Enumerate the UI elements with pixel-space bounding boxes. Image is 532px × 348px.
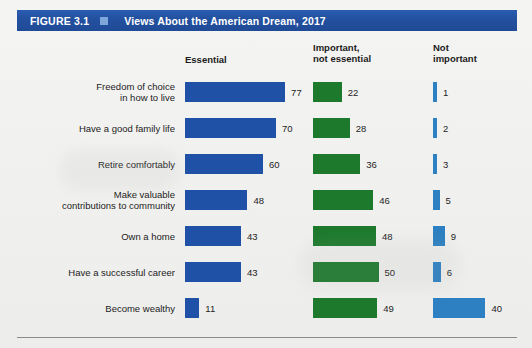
bar-value-label: 1 bbox=[443, 87, 448, 98]
row-label: Own a home bbox=[10, 231, 175, 242]
bar bbox=[185, 82, 285, 102]
bar-value-label: 48 bbox=[253, 195, 264, 206]
bar bbox=[313, 262, 379, 282]
bar bbox=[313, 298, 377, 318]
figure-number: FIGURE 3.1 bbox=[30, 15, 89, 27]
row-label: Have a successful career bbox=[10, 267, 175, 278]
chart-row: Make valuable contributions to community… bbox=[0, 182, 532, 218]
bar-value-label: 2 bbox=[443, 123, 448, 134]
bar-value-label: 22 bbox=[348, 87, 359, 98]
chart-row: Become wealthy114940 bbox=[0, 290, 532, 326]
bar-value-label: 43 bbox=[247, 231, 258, 242]
bar bbox=[433, 154, 437, 174]
bar bbox=[433, 298, 485, 318]
bar-value-label: 77 bbox=[291, 87, 302, 98]
chart-row: Have a good family life70282 bbox=[0, 110, 532, 146]
bar-value-label: 11 bbox=[205, 303, 215, 314]
bar bbox=[185, 154, 263, 174]
bar-value-label: 28 bbox=[356, 123, 367, 134]
bar bbox=[433, 226, 445, 246]
bar-value-label: 70 bbox=[282, 123, 293, 134]
chart-row: Own a home43489 bbox=[0, 218, 532, 254]
column-header-essential: Essential bbox=[185, 55, 227, 66]
bar bbox=[433, 262, 441, 282]
column-header-important-not-essential: Important, not essential bbox=[313, 43, 371, 64]
chart-row: Freedom of choice in how to live77221 bbox=[0, 74, 532, 110]
figure-page: FIGURE 3.1 Views About the American Drea… bbox=[0, 0, 532, 348]
square-marker-icon bbox=[100, 17, 108, 25]
chart-rows: Freedom of choice in how to live77221Hav… bbox=[0, 74, 532, 326]
bar-value-label: 6 bbox=[447, 267, 452, 278]
bar-value-label: 5 bbox=[446, 195, 451, 206]
bar bbox=[313, 82, 342, 102]
bar bbox=[433, 190, 440, 210]
bar bbox=[313, 154, 360, 174]
bar bbox=[185, 190, 247, 210]
chart-row: Have a successful career43506 bbox=[0, 254, 532, 290]
bar bbox=[313, 118, 350, 138]
bar bbox=[313, 190, 373, 210]
bar bbox=[185, 118, 276, 138]
row-label: Become wealthy bbox=[10, 303, 175, 314]
chart-baseline bbox=[17, 337, 517, 338]
column-header-not-important: Not important bbox=[433, 43, 477, 64]
bar bbox=[185, 262, 241, 282]
row-label: Have a good family life bbox=[10, 123, 175, 134]
bar bbox=[185, 298, 199, 318]
bar bbox=[313, 226, 376, 246]
bar-value-label: 43 bbox=[247, 267, 258, 278]
bar-value-label: 40 bbox=[491, 303, 502, 314]
figure-title-bar: FIGURE 3.1 Views About the American Drea… bbox=[17, 10, 517, 31]
row-label: Freedom of choice in how to live bbox=[10, 81, 175, 103]
bar-value-label: 46 bbox=[379, 195, 390, 206]
bar bbox=[185, 226, 241, 246]
figure-title: Views About the American Dream, 2017 bbox=[124, 15, 326, 27]
row-label: Make valuable contributions to community bbox=[10, 189, 175, 211]
bar-value-label: 3 bbox=[443, 159, 448, 170]
row-label: Retire comfortably bbox=[10, 159, 175, 170]
bar-value-label: 60 bbox=[269, 159, 280, 170]
bar-value-label: 48 bbox=[382, 231, 393, 242]
bar bbox=[433, 82, 437, 102]
chart-row: Retire comfortably60363 bbox=[0, 146, 532, 182]
bar-value-label: 9 bbox=[451, 231, 456, 242]
bar-value-label: 50 bbox=[385, 267, 396, 278]
bar-value-label: 49 bbox=[383, 303, 394, 314]
bar bbox=[433, 118, 437, 138]
bar-value-label: 36 bbox=[366, 159, 377, 170]
